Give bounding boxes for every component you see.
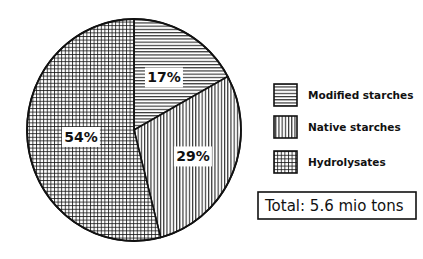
total-annotation: Total: 5.6 mio tons xyxy=(258,192,416,219)
total-text: Total: 5.6 mio tons xyxy=(264,197,404,215)
slice-label-modified-starches: 17% xyxy=(147,69,181,85)
legend-swatch-modified-starches xyxy=(274,84,297,106)
legend-label-modified-starches: Modified starches xyxy=(308,89,413,101)
pie-chart: 17%29%54% Modified starchesNative starch… xyxy=(0,0,423,259)
slice-label-hydrolysates: 54% xyxy=(64,129,98,145)
legend-swatch-hydrolysates xyxy=(274,151,297,173)
legend-label-hydrolysates: Hydrolysates xyxy=(308,156,386,168)
legend-label-native-starches: Native starches xyxy=(308,121,401,133)
legend-swatch-native-starches xyxy=(274,116,297,138)
slice-label-native-starches: 29% xyxy=(176,148,210,164)
